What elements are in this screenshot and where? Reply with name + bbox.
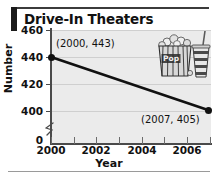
footer-divider bbox=[8, 171, 210, 172]
data-point-2007[interactable] bbox=[205, 107, 212, 114]
popcorn-box-text: Pop bbox=[163, 54, 180, 63]
data-point-2000[interactable] bbox=[48, 54, 55, 61]
data-label-2007: (2007, 405) bbox=[141, 114, 200, 125]
popcorn-and-soda-illustration: Pop bbox=[153, 29, 211, 81]
chart-screenshot: Drive-In Theaters 460 440 420 400 0 2000… bbox=[0, 0, 218, 175]
series-line bbox=[0, 0, 218, 175]
data-label-2000: (2000, 443) bbox=[56, 38, 115, 49]
